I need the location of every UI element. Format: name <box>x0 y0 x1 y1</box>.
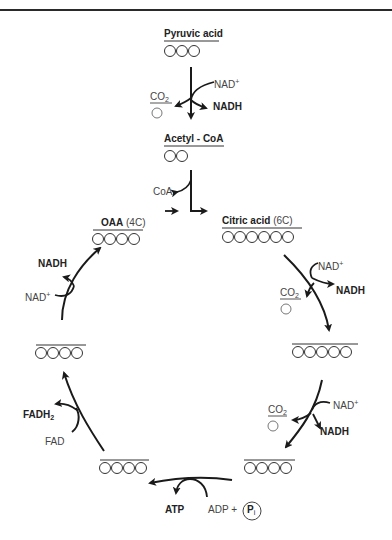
fadh2-label: FADH2 <box>23 410 54 421</box>
pyruvic-acid-label: Pyruvic acid <box>164 29 223 39</box>
adp-plus-label: ADP + <box>208 505 237 515</box>
atp-label: ATP <box>165 505 184 515</box>
co2-label-1: CO2 <box>150 92 169 103</box>
nad-plus-label-3: NAD+ <box>333 399 358 411</box>
nadh-label-3: NADH <box>320 427 349 437</box>
nadh-label-1: NADH <box>213 102 242 112</box>
nadh-label-4: NADH <box>38 259 67 269</box>
nad-plus-label-2: NAD+ <box>318 260 343 272</box>
pi-label: Pi <box>247 505 255 516</box>
co2-label-3: CO2 <box>268 405 287 416</box>
nad-plus-label-1: NAD+ <box>214 78 239 90</box>
fad-label: FAD <box>45 437 64 447</box>
co2-label-2: CO2 <box>280 288 299 299</box>
acetyl-coa-label: Acetyl - CoA <box>164 134 223 144</box>
coa-label: CoA <box>153 187 172 197</box>
oaa-label: OAA (4C) <box>101 218 145 228</box>
nad-plus-label-4: NAD+ <box>25 291 50 303</box>
citric-acid-label: Citric acid (6C) <box>222 216 293 226</box>
nadh-label-2: NADH <box>336 286 365 296</box>
